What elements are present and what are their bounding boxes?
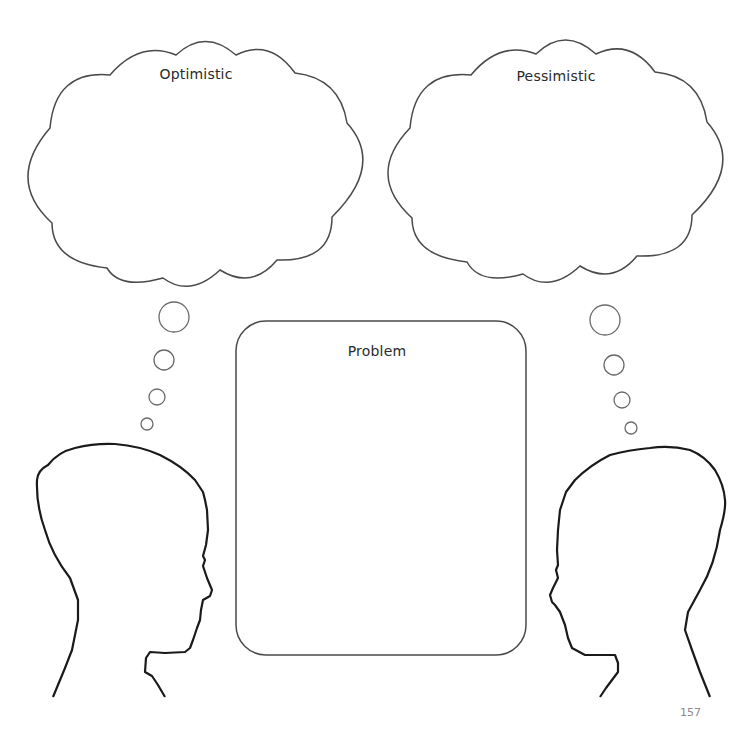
problem-box[interactable]: [236, 321, 526, 655]
thought-bubble-icon: [590, 305, 620, 335]
thought-bubble-icon: [625, 422, 637, 434]
pessimistic-label: Pessimistic: [516, 68, 595, 84]
thought-bubble-icon: [604, 355, 624, 375]
problem-label: Problem: [348, 343, 407, 359]
page-number: 157: [680, 706, 701, 719]
head-silhouette-icon: [550, 447, 725, 697]
thought-bubble-icon: [154, 350, 174, 370]
thought-bubble-icon: [149, 389, 165, 405]
thought-bubble-icon: [159, 302, 189, 332]
head-silhouette-icon: [37, 444, 212, 697]
optimistic-label: Optimistic: [159, 66, 232, 82]
thought-bubble-icon: [614, 392, 630, 408]
thought-bubble-icon: [141, 418, 153, 430]
